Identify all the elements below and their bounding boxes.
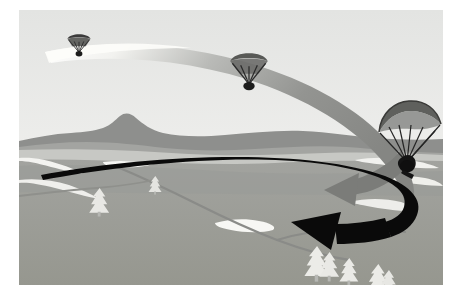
- glider-pilot: [76, 51, 83, 56]
- glider-pilot: [400, 160, 414, 172]
- tree-trunk: [315, 275, 318, 282]
- illustration-svg: [19, 10, 443, 285]
- glider-pilot: [243, 82, 254, 90]
- tree-trunk: [348, 281, 351, 286]
- paraglider-landing-illustration: [19, 10, 443, 285]
- tree-trunk: [98, 212, 101, 217]
- screenshot-root: [0, 0, 462, 302]
- tree-trunk: [328, 276, 331, 282]
- tree-trunk: [154, 192, 156, 195]
